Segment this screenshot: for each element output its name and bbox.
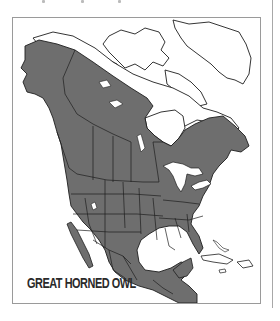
- range-map: [13, 18, 260, 303]
- page-divider-line: [272, 0, 273, 308]
- bahamas: [213, 240, 229, 252]
- baja-california: [67, 222, 93, 268]
- jamaica: [219, 269, 226, 273]
- hispaniola: [237, 260, 253, 268]
- range-map-frame: GREAT HORNED OWL: [12, 17, 261, 304]
- greenland-landmass: [173, 20, 251, 84]
- species-label: GREAT HORNED OWL: [27, 275, 136, 291]
- cropped-text-fragments: [0, 0, 280, 6]
- cuba: [201, 254, 233, 264]
